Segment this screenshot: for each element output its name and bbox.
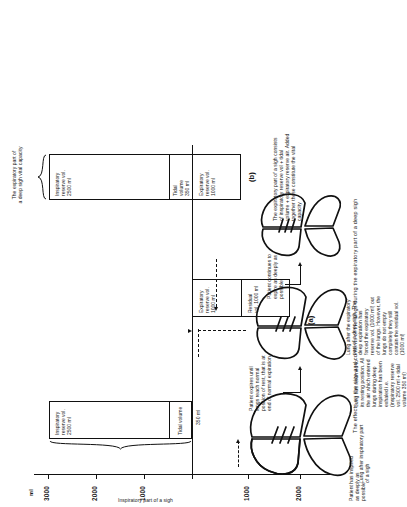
axis-label-3000: 3000	[43, 486, 50, 501]
process-arrow-2-head	[298, 262, 302, 266]
connector-lung2-horizontal	[198, 329, 199, 357]
connector-lung2-vertical	[198, 330, 246, 331]
connector-lung1-arrowhead	[236, 439, 240, 443]
panel-b-note: The expiratory part of a sigh consists o…	[272, 133, 302, 221]
baseline-value-label: 350 ml	[195, 410, 201, 425]
process-arrow-2-stem	[285, 284, 301, 285]
axis-label-minus-1000: 1000	[243, 486, 250, 501]
axis-label-minus-2000: 2000	[295, 486, 302, 501]
process-arrow-1-line	[300, 369, 301, 393]
figure-caption: The effects on the size and contents of …	[352, 133, 358, 433]
axis-unit-label: ml	[28, 489, 34, 496]
process-arrow-1-label: Patient expires until lungs reach normal…	[248, 355, 272, 411]
panel-b-id: (b)	[247, 172, 256, 182]
axis-tick-1000	[144, 474, 145, 479]
process-arrow-1-head	[298, 366, 302, 370]
segment-label-inspiratory-reserve-a: Inspiratory reserve vol. 2500 ml	[54, 409, 72, 435]
connector-lung3-arrowhead	[214, 307, 218, 311]
brace-inspiratory-part	[49, 440, 192, 450]
segment-label-tidal-volume-b: Tidal volume 350 ml	[172, 180, 190, 196]
brace-label-expiratory-part: The expiratory part of a deep sigh vital…	[11, 129, 23, 221]
segment-expiratory-reserve-b: Expiratory reserve vol. 1000 ml	[193, 155, 242, 199]
segment-label-tidal-volume-a: Tidal volume	[177, 407, 183, 435]
segment-tidal-volume-b: Tidal volume 350 ml	[170, 155, 193, 199]
segment-label-inspiratory-reserve-b: Inspiratory reserve vol. 2500 ml	[54, 170, 72, 196]
segment-inspiratory-reserve-a: Inspiratory reserve vol. 2500 ml	[50, 402, 170, 438]
axis-label-2000: 2000	[91, 486, 98, 501]
brace-expiratory-part-vital-capacity	[36, 154, 47, 200]
annotation-top-left: Patient has inspired as deeply as possib…	[348, 455, 366, 501]
process-arrow-2-line	[300, 265, 301, 285]
segment-label-expiratory-reserve-b: Expiratory reserve vol. 1000 ml	[198, 170, 216, 196]
process-arrow-1-stem	[283, 392, 301, 393]
connector-lung1-to-box	[238, 441, 239, 467]
panel-b-volume-box: Inspiratory reserve vol. 2500 ml Tidal v…	[49, 154, 241, 200]
segment-tidal-volume-a: Tidal volume	[170, 402, 193, 438]
panel-a-id: (a)	[306, 316, 315, 325]
connector-lung2-arrowhead	[188, 330, 192, 334]
segment-inspiratory-reserve-b: Inspiratory reserve vol. 2500 ml	[50, 155, 170, 199]
lung2-caption: Lung has returned to its resting positio…	[353, 357, 407, 407]
connector-lung3-horizontal	[216, 259, 217, 307]
panel-a-left-volume-box: Inspiratory reserve vol. 2500 ml Tidal v…	[49, 401, 192, 439]
axis-tick-3000	[48, 474, 49, 479]
axis-tick-2000	[96, 474, 97, 479]
process-arrow-2-label: Patient continues to expire as deeply as…	[266, 245, 284, 299]
